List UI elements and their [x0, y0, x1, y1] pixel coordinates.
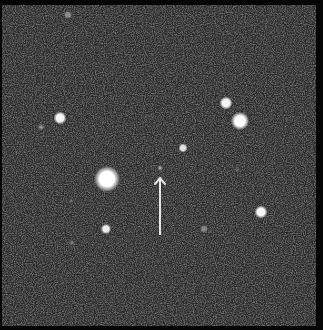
faint-dot-left-icon: [69, 199, 73, 203]
star-right-lower-icon: [254, 205, 268, 219]
target-object-icon: [157, 165, 163, 171]
star-lower-left-icon: [101, 224, 112, 235]
bright-star-center-left-icon: [94, 166, 121, 193]
faint-star-bottom-left-icon: [69, 240, 75, 246]
faint-star-lower-icon: [200, 225, 208, 233]
faint-star-top-icon: [64, 11, 72, 19]
star-field-canvas: [0, 0, 323, 330]
faint-star-right-icon: [234, 167, 240, 173]
star-upper-right-a-icon: [219, 96, 233, 110]
star-center-icon: [178, 143, 187, 152]
star-upper-right-b-icon: [231, 112, 250, 131]
faint-star-left-icon: [37, 123, 45, 131]
star-field-image: [0, 0, 323, 330]
target-object-group: [157, 165, 163, 171]
star-upper-left-icon: [53, 111, 67, 125]
